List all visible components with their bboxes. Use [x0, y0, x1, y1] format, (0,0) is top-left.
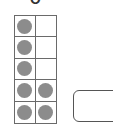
cropped-digit: 0	[29, 0, 42, 7]
counter-dot-icon	[38, 83, 53, 98]
counter-dot-icon	[38, 105, 53, 120]
counter-dot-icon	[17, 19, 32, 34]
counter-dot-icon	[17, 61, 32, 76]
ten-frame-cell	[36, 80, 57, 101]
ten-frame-cell	[36, 37, 57, 58]
ten-frame-cell	[36, 102, 57, 123]
ten-frame-cell	[15, 59, 36, 80]
ten-frame-cell	[15, 16, 36, 37]
answer-input-box[interactable]	[73, 90, 113, 122]
counter-dot-icon	[17, 40, 32, 55]
ten-frame-cell	[36, 59, 57, 80]
counter-dot-icon	[17, 83, 32, 98]
ten-frame-cell	[15, 102, 36, 123]
ten-frame-cell	[15, 37, 36, 58]
ten-frame-cell	[36, 16, 57, 37]
ten-frame-cell	[15, 80, 36, 101]
ten-frame	[14, 15, 57, 124]
counter-dot-icon	[17, 105, 32, 120]
